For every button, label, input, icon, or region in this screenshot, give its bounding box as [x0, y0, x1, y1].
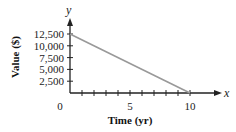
y-tick-label: 7,500 [39, 52, 64, 64]
x-tick-label: 5 [127, 100, 133, 112]
y-axis-variable: y [65, 3, 72, 17]
y-tick-label: 2,500 [39, 75, 64, 87]
y-tick-label: 12,500 [34, 28, 65, 40]
chart: 2,5005,0007,50010,00012,500510 y x 0 Tim… [0, 0, 236, 132]
axes [67, 18, 222, 96]
x-tick-label: 10 [185, 100, 197, 112]
y-tick-label: 5,000 [39, 63, 64, 75]
x-axis-title: Time (yr) [108, 114, 153, 127]
series [70, 34, 190, 93]
x-axis-variable: x [223, 86, 230, 100]
x-axis-arrow-icon [214, 90, 222, 96]
series-line-value [70, 34, 190, 93]
y-axis-arrow-icon [67, 18, 73, 26]
origin-label: 0 [57, 100, 63, 112]
y-axis-title: Value ($) [9, 36, 22, 78]
y-tick-label: 10,000 [34, 40, 65, 52]
